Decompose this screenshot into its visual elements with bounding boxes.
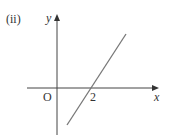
graph-line [67, 34, 126, 125]
y-axis-arrow-icon [54, 14, 60, 21]
graph-figure: (ii) y O 2 x [0, 0, 169, 139]
origin-label: O [43, 90, 52, 104]
y-axis-label: y [45, 11, 52, 25]
x-axis-label: x [153, 90, 160, 104]
figure-label: (ii) [6, 12, 21, 26]
x-intercept-label: 2 [90, 90, 96, 104]
